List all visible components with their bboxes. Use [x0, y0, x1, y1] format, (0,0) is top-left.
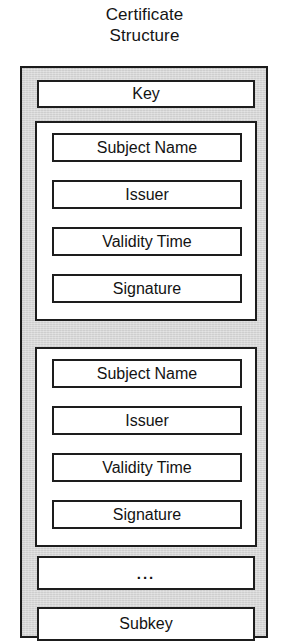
signature-group-1: Subject Name Issuer Validity Time Signat…: [35, 121, 257, 321]
group-1-signature: Signature: [52, 274, 242, 303]
figure-title-line-2: Structure: [0, 25, 289, 46]
group-2-signature: Signature: [52, 500, 242, 529]
group-1-issuer: Issuer: [52, 180, 242, 209]
figure-title-line-1: Certificate: [0, 4, 289, 25]
group-2-validity-time: Validity Time: [52, 453, 242, 482]
subkey-box: Subkey: [37, 607, 255, 641]
certificate-container: Key Subject Name Issuer Validity Time Si…: [20, 66, 268, 638]
ellipsis-box: ...: [37, 556, 255, 590]
signature-group-2: Subject Name Issuer Validity Time Signat…: [35, 347, 257, 547]
figure-title: Certificate Structure: [0, 4, 289, 46]
group-1-subject-name: Subject Name: [52, 133, 242, 162]
group-1-validity-time: Validity Time: [52, 227, 242, 256]
key-box: Key: [37, 80, 255, 108]
group-2-issuer: Issuer: [52, 406, 242, 435]
group-2-subject-name: Subject Name: [52, 359, 242, 388]
